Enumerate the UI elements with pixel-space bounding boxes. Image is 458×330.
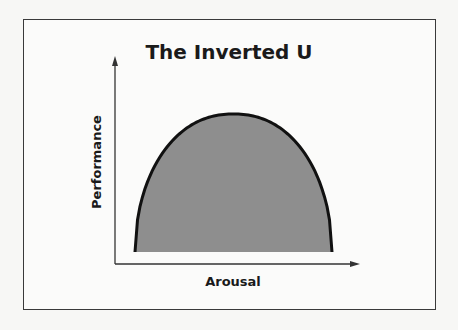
x-axis-arrow (350, 261, 360, 267)
curve-area (135, 114, 332, 252)
chart-svg (0, 0, 458, 330)
y-axis-arrow (112, 56, 118, 66)
